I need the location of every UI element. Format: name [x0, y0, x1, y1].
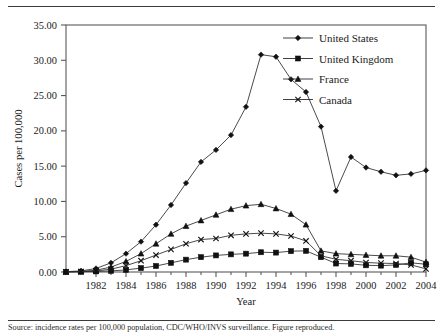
x-axis-tick-label: 1998 [326, 280, 347, 291]
y-axis-title: Cases per 100,000 [13, 110, 24, 188]
line-chart: 0.005.0010.0015.0020.0025.0030.0035.0019… [0, 0, 443, 312]
data-marker-square [169, 260, 174, 265]
bottom-rule [8, 320, 435, 321]
data-marker-diamond [363, 165, 368, 170]
data-marker-diamond [348, 154, 353, 159]
data-marker-diamond [378, 169, 383, 174]
x-axis-tick-label: 1992 [236, 280, 257, 291]
data-marker-square [296, 56, 301, 61]
data-marker-diamond [423, 168, 428, 173]
y-axis-tick-label: 10.00 [34, 196, 57, 207]
data-marker-triangle [168, 231, 174, 236]
data-marker-triangle [258, 201, 264, 206]
data-marker-cross [138, 258, 143, 263]
data-marker-cross [168, 247, 173, 252]
data-marker-diamond [258, 52, 263, 57]
figure-container: 0.005.0010.0015.0020.0025.0030.0035.0019… [0, 0, 443, 332]
data-marker-triangle [138, 251, 144, 256]
y-axis-tick-label: 5.00 [39, 231, 57, 242]
data-marker-cross [153, 252, 158, 257]
data-marker-triangle [198, 217, 204, 222]
x-axis-tick-label: 1984 [116, 280, 138, 291]
y-axis-tick-label: 25.00 [34, 90, 57, 101]
data-marker-square [244, 251, 249, 256]
data-marker-square [304, 248, 309, 253]
legend-label-france: France [319, 73, 349, 85]
x-axis-tick-label: 2002 [386, 280, 407, 291]
data-marker-diamond [295, 35, 300, 40]
data-marker-square [289, 249, 294, 254]
data-marker-triangle [318, 248, 324, 253]
data-marker-cross [183, 241, 188, 246]
data-marker-cross [303, 238, 308, 243]
data-marker-square [214, 253, 219, 258]
data-marker-square [229, 252, 234, 257]
y-axis-tick-label: 30.00 [34, 55, 57, 66]
data-marker-square [154, 264, 159, 269]
data-marker-square [139, 266, 144, 271]
y-axis-tick-label: 20.00 [34, 125, 57, 136]
data-marker-diamond [333, 188, 338, 193]
x-axis-tick-label: 1986 [146, 280, 167, 291]
x-axis-tick-label: 1994 [266, 280, 288, 291]
data-marker-diamond [183, 180, 188, 185]
data-marker-triangle [153, 241, 159, 246]
legend-label-united-states: United States [319, 32, 378, 44]
series-line-united-states [66, 55, 426, 272]
data-marker-triangle [183, 223, 189, 228]
data-marker-diamond [243, 104, 248, 109]
data-marker-square [184, 257, 189, 262]
legend-label-united-kingdom: United Kingdom [319, 53, 394, 65]
y-axis-tick-label: 15.00 [34, 161, 57, 172]
data-marker-triangle [288, 211, 294, 216]
figure-caption: Source: incidence rates per 100,000 popu… [8, 323, 435, 332]
data-marker-triangle [213, 212, 219, 217]
x-axis-tick-label: 1990 [206, 280, 227, 291]
top-rule [8, 6, 435, 7]
data-marker-square [274, 250, 279, 255]
data-marker-square [259, 250, 264, 255]
y-axis-tick-label: 35.00 [34, 20, 57, 31]
x-axis-tick-label: 1988 [176, 280, 197, 291]
data-marker-square [199, 255, 204, 260]
x-axis-tick-label: 2004 [416, 280, 438, 291]
series-line-france [66, 204, 426, 272]
x-axis-tick-label: 2000 [356, 280, 377, 291]
x-axis-tick-label: 1996 [296, 280, 317, 291]
data-marker-diamond [393, 173, 398, 178]
data-marker-triangle [303, 222, 309, 227]
x-axis-title: Year [236, 296, 256, 307]
legend-label-canada: Canada [319, 94, 352, 106]
data-marker-diamond [408, 171, 413, 176]
y-axis-tick-label: 0.00 [39, 267, 57, 278]
data-marker-diamond [318, 124, 323, 129]
data-marker-diamond [273, 54, 278, 59]
x-axis-tick-label: 1982 [86, 280, 107, 291]
